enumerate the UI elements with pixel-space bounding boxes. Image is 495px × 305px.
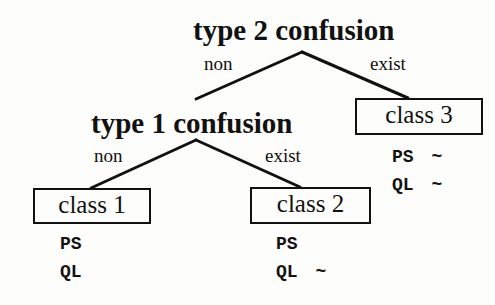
class-1-label: class 1 xyxy=(58,191,125,218)
class-3-attr-ql: QL~ xyxy=(392,175,442,195)
class-3-box: class 3 xyxy=(355,98,483,135)
class-2-box: class 2 xyxy=(250,187,371,224)
class-1-box: class 1 xyxy=(33,188,151,224)
class-3-label: class 3 xyxy=(385,101,452,128)
class-2-attr-ql: QL~ xyxy=(276,262,326,282)
inner-node-label: type 1 confusion xyxy=(91,108,292,138)
root-left-branch-label: non xyxy=(204,54,233,74)
inner-left-branch-label: non xyxy=(94,146,123,166)
class-2-label: class 2 xyxy=(277,190,344,217)
class-2-attr-ps: PS xyxy=(276,234,316,254)
class-1-attr-ql: QL xyxy=(60,262,100,282)
root-right-branch-label: exist xyxy=(370,54,406,74)
class-3-attr-ps: PS~ xyxy=(392,147,442,167)
inner-right-branch-label: exist xyxy=(265,146,301,166)
root-node-label: type 2 confusion xyxy=(193,15,394,45)
class-1-attr-ps: PS xyxy=(60,234,100,254)
